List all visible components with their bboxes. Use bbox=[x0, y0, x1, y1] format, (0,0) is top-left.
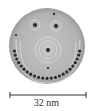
smile-dot bbox=[76, 57, 79, 60]
smile-dot bbox=[58, 74, 61, 77]
scale-bar-label: 32 nm bbox=[0, 97, 93, 109]
dot bbox=[15, 34, 17, 36]
smile-dot bbox=[29, 73, 32, 76]
smile-dot bbox=[20, 65, 23, 68]
smile-dot bbox=[54, 76, 57, 79]
smile-dot bbox=[14, 54, 17, 57]
smile-dot bbox=[37, 76, 40, 79]
nose-dot bbox=[46, 48, 50, 52]
smile-dot bbox=[15, 57, 18, 60]
smile-dot bbox=[26, 70, 29, 73]
smile-dot bbox=[77, 54, 80, 57]
eye-dot bbox=[33, 23, 37, 27]
smile-dot bbox=[68, 68, 71, 71]
smile-dot bbox=[45, 77, 48, 80]
smile-dot bbox=[33, 74, 36, 77]
smile-dot bbox=[65, 70, 68, 73]
eye-dot bbox=[54, 24, 58, 28]
smile-dot bbox=[22, 68, 25, 71]
smile-dot bbox=[17, 61, 20, 64]
dot bbox=[53, 13, 55, 15]
smile-dot bbox=[41, 77, 44, 80]
smile-dot bbox=[74, 61, 77, 64]
smile-dot bbox=[62, 73, 65, 76]
smile-dot bbox=[71, 65, 74, 68]
micrograph-image bbox=[0, 0, 93, 111]
smile-dot bbox=[13, 50, 16, 53]
dot bbox=[47, 67, 49, 69]
smile-dot bbox=[78, 50, 81, 53]
smile-dot bbox=[50, 77, 53, 80]
